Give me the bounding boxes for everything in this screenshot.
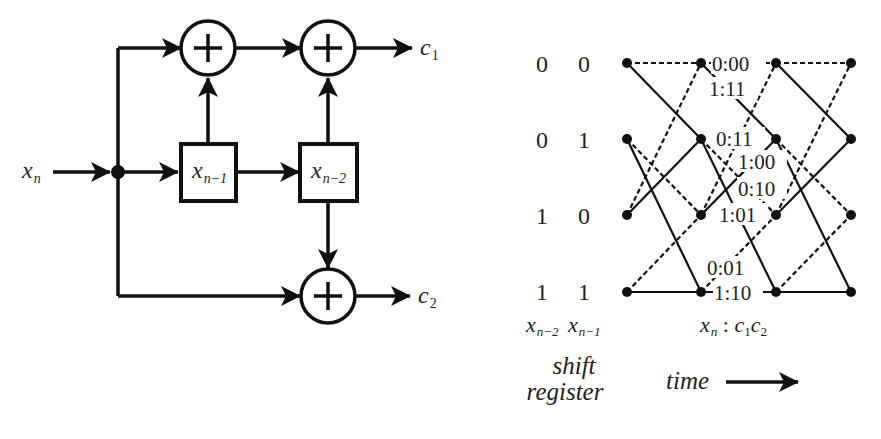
- trellis-node: [622, 210, 632, 220]
- trellis-node: [771, 58, 781, 68]
- edge-00-01-input1: [627, 63, 701, 139]
- branch-label-0-00: 0:00: [712, 52, 749, 76]
- branch-key-label: xn : c1c2: [699, 312, 767, 339]
- edge-10-00-input0: [776, 63, 851, 215]
- split-junction-dot: [111, 165, 125, 179]
- state-3-xn1: 1: [578, 279, 590, 305]
- output-c2-label: c2: [418, 282, 437, 311]
- branch-label-0-01: 0:01: [707, 256, 744, 280]
- trellis-node: [846, 58, 856, 68]
- trellis-node: [771, 210, 781, 220]
- trellis-node: [622, 134, 632, 144]
- state-col-xn1-label: xn−1: [567, 312, 601, 339]
- state-3-xn2: 1: [536, 279, 548, 305]
- trellis-node: [622, 58, 632, 68]
- trellis-node: [696, 134, 706, 144]
- state-1-xn1: 1: [578, 127, 590, 153]
- trellis-state-labels: 0 0 0 1 1 0 1 1: [536, 51, 590, 305]
- branch-label-1-10: 1:10: [714, 281, 751, 305]
- edge-11-10-input0: [627, 215, 701, 292]
- edge-10-00-input0: [627, 63, 701, 215]
- branch-label-1-00: 1:00: [738, 150, 775, 174]
- branch-label-0-10: 0:10: [738, 177, 775, 201]
- time-label: time: [666, 367, 709, 394]
- input-label: xn: [21, 157, 41, 186]
- trellis-node: [696, 210, 706, 220]
- edge-00-01-input1: [776, 63, 851, 139]
- trellis-node: [771, 287, 781, 297]
- trellis-node: [846, 210, 856, 220]
- state-2-xn2: 1: [536, 203, 548, 229]
- edge-11-10-input0: [776, 215, 851, 292]
- state-2-xn1: 0: [578, 203, 590, 229]
- trellis-node: [696, 287, 706, 297]
- branch-label-1-01: 1:01: [719, 203, 756, 227]
- trellis-node: [846, 287, 856, 297]
- state-0-xn2: 0: [536, 51, 548, 77]
- adder-1: [181, 21, 235, 75]
- shift-register-caption-line2: register: [527, 378, 604, 405]
- trellis-node: [771, 134, 781, 144]
- output-c1-label: c1: [420, 34, 439, 63]
- adder-2: [301, 21, 355, 75]
- branch-label-1-11: 1:11: [709, 77, 746, 101]
- state-col-xn2-label: xn−2: [525, 312, 559, 339]
- trellis-node: [846, 134, 856, 144]
- trellis-node: [622, 287, 632, 297]
- state-1-xn2: 0: [536, 127, 548, 153]
- edge-01-11-input1: [776, 139, 851, 292]
- adder-3: [301, 269, 355, 323]
- trellis-node: [696, 58, 706, 68]
- convolutional-encoder-figure: xn xn−1 xn−2 c1 c2 0 0 0 1 1 0 1 1: [0, 0, 881, 439]
- edge-01-11-input1: [627, 139, 701, 292]
- shift-register-caption-line1: shift: [552, 352, 596, 379]
- state-0-xn1: 0: [578, 51, 590, 77]
- branch-label-0-11: 0:11: [716, 127, 753, 151]
